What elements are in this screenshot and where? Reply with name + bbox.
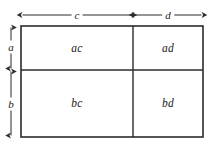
dimension-label-d: d xyxy=(162,9,174,22)
outer-rectangle xyxy=(21,26,203,137)
cell-label-ac: ac xyxy=(71,43,82,55)
dimension-label-c: c xyxy=(72,9,83,22)
dimension-label-b: b xyxy=(5,98,17,111)
cell-label-ad: ad xyxy=(162,43,174,55)
area-model-diagram: c d a b ac ad bc bd xyxy=(0,0,213,145)
cell-label-bd: bd xyxy=(162,98,174,110)
diagram-canvas xyxy=(0,0,213,145)
dimension-label-a: a xyxy=(5,41,17,54)
cell-label-bc: bc xyxy=(71,98,82,110)
